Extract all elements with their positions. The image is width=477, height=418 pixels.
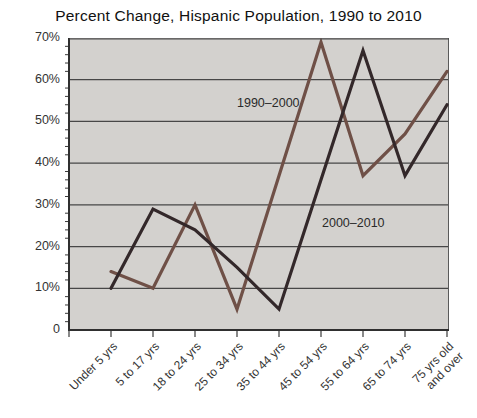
y-axis-label-0: 0 (53, 322, 60, 336)
y-axis-label-70: 70% (35, 30, 60, 44)
y-axis-label-20: 20% (35, 239, 60, 253)
chart-plot-area (63, 38, 455, 342)
x-axis-label-8: 75 yrs old and over (410, 340, 466, 396)
chart-title: Percent Change, Hispanic Population, 199… (0, 7, 477, 25)
y-axis-label-30: 30% (35, 197, 60, 211)
chart-figure: Percent Change, Hispanic Population, 199… (0, 0, 477, 418)
series-label-1990-2000: 1990–2000 (237, 96, 300, 110)
series-label-2000-2010: 2000–2010 (322, 216, 385, 230)
y-axis-label-50: 50% (35, 113, 60, 127)
y-axis-label-60: 60% (35, 72, 60, 86)
plot-background (69, 38, 449, 330)
x-axis-label-0: Under 5 yrs (67, 340, 121, 394)
y-axis-label-10: 10% (35, 280, 60, 294)
y-axis-label-40: 40% (35, 155, 60, 169)
